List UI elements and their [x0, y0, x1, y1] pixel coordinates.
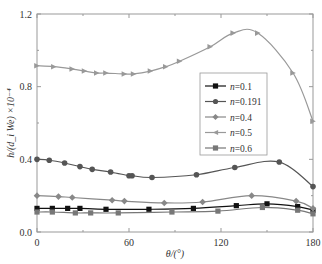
legend-label: n=0.6	[230, 144, 252, 154]
legend: n=0.1n=0.191n=0.4n=0.5n=0.6	[200, 73, 267, 155]
plot-frame	[37, 14, 313, 232]
circle-marker-icon	[108, 169, 114, 175]
circle-marker-icon	[194, 172, 200, 178]
circle-marker-icon	[46, 157, 52, 163]
square-marker-icon	[34, 209, 39, 214]
x-tick-label: 120	[214, 237, 229, 248]
square-marker-icon	[169, 209, 174, 214]
circle-marker-icon	[232, 165, 238, 171]
square-marker-icon	[213, 83, 218, 88]
square-marker-icon	[260, 205, 265, 210]
circle-marker-icon	[34, 157, 40, 163]
x-tick-label: 0	[35, 237, 40, 248]
circle-marker-icon	[62, 160, 68, 166]
y-axis-title: h/(d_i We) ×10⁻⁴	[5, 88, 17, 158]
line-chart: 060120180 0.00.40.81.2 θ/(°) h/(d_i We) …	[0, 0, 322, 264]
square-marker-icon	[310, 211, 315, 216]
square-marker-icon	[215, 209, 220, 214]
circle-marker-icon	[149, 175, 155, 181]
legend-label: n=0.4	[230, 113, 252, 123]
square-marker-icon	[146, 207, 151, 212]
y-tick-label: 1.2	[20, 9, 33, 20]
legend-label: n=0.1	[230, 82, 252, 92]
y-tick-label: 0.4	[20, 154, 33, 165]
square-marker-icon	[295, 208, 300, 213]
square-marker-icon	[103, 207, 108, 212]
x-tick-label: 180	[306, 237, 321, 248]
circle-marker-icon	[77, 164, 83, 170]
square-marker-icon	[88, 210, 93, 215]
square-marker-icon	[191, 206, 196, 211]
circle-marker-icon	[213, 99, 218, 104]
x-axis-title: θ/(°)	[166, 248, 185, 260]
square-marker-icon	[213, 145, 218, 150]
circle-marker-icon	[310, 184, 316, 190]
y-tick-label: 0.0	[20, 227, 33, 238]
square-marker-icon	[234, 203, 239, 208]
square-marker-icon	[65, 206, 70, 211]
circle-marker-icon	[276, 159, 282, 165]
y-tick-label: 0.8	[20, 81, 33, 92]
circle-marker-icon	[129, 173, 135, 179]
square-marker-icon	[264, 201, 269, 206]
square-marker-icon	[116, 210, 121, 215]
square-marker-icon	[50, 209, 55, 214]
square-marker-icon	[73, 210, 78, 215]
circle-marker-icon	[89, 167, 95, 173]
square-marker-icon	[77, 206, 82, 211]
legend-label: n=0.5	[230, 128, 252, 138]
x-tick-label: 60	[124, 237, 134, 248]
legend-label: n=0.191	[230, 97, 262, 107]
